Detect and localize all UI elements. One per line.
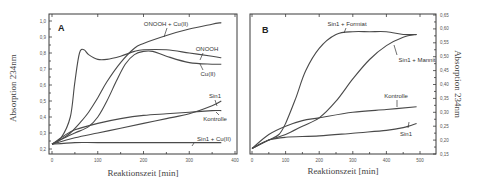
- series-curve: [252, 31, 417, 148]
- panel-b-label: B: [262, 25, 269, 35]
- x-tick-label: 100: [282, 158, 290, 163]
- y-tick-label: 0,3: [40, 131, 47, 136]
- panel-a-x-axis-title: Reaktionszeit [min]: [107, 168, 178, 178]
- panel-a: 1,00,90,80,70,60,50,40,30,20100200300400…: [8, 14, 239, 178]
- y-tick-label: 0,6: [40, 83, 47, 88]
- x-tick-label: 400: [231, 158, 239, 163]
- series-label-onooh: ONOOH: [196, 46, 219, 52]
- series-label-sin1-b: Sin1: [400, 131, 413, 137]
- y-tick-label: 0,50: [440, 54, 449, 59]
- series-curve: [52, 23, 221, 145]
- panel-b-x-axis-title: Reaktionszeit [min]: [307, 166, 378, 176]
- y-tick-label: 0,2: [40, 147, 47, 152]
- y-tick-label: 0,60: [440, 26, 449, 31]
- panel-b-y-axis-title: Absorption 234nm: [453, 50, 463, 118]
- figure: 1,00,90,80,70,60,50,40,30,20100200300400…: [0, 0, 486, 187]
- y-tick-label: 0,15: [440, 152, 449, 157]
- panel-a-frame: [49, 14, 237, 154]
- x-tick-label: 0: [51, 158, 54, 163]
- series-curve: [52, 101, 221, 144]
- y-tick-label: 0,20: [440, 138, 449, 143]
- panel-a-label: A: [58, 23, 65, 33]
- x-tick-label: 300: [349, 158, 357, 163]
- y-tick-label: 0,7: [40, 67, 47, 72]
- series-label-cu: Cu(II): [201, 71, 216, 77]
- y-tick-label: 1,0: [40, 19, 47, 24]
- leader-line: [394, 45, 397, 55]
- y-tick-label: 0,65: [440, 13, 449, 18]
- leader-line: [216, 112, 219, 115]
- y-tick-label: 0,40: [440, 82, 449, 87]
- x-tick-label: 500: [416, 158, 424, 163]
- series-label-kontrolle-b: Kontrolle: [384, 93, 408, 99]
- series-label-sin1: Sin1: [209, 93, 222, 99]
- panel-a-y-axis-title: Absorption 234nm: [8, 54, 18, 122]
- leader-line: [215, 100, 217, 106]
- leader-line: [192, 143, 194, 146]
- series-label-sin1-formiat: Sin1 + Formiat: [327, 21, 367, 27]
- x-tick-label: 400: [383, 158, 391, 163]
- y-tick-label: 0,9: [40, 35, 47, 40]
- series-curve: [252, 107, 417, 149]
- leader-line: [408, 122, 409, 128]
- y-tick-label: 0,5: [40, 99, 47, 104]
- series-label-sin1-cu: Sin1 + Cu(II): [197, 136, 231, 142]
- series-curve: [52, 142, 221, 144]
- series-label-sin1-mannit: Sin1 + Mannit: [399, 57, 436, 63]
- y-tick-label: 0,30: [440, 110, 449, 115]
- x-tick-label: 300: [185, 158, 193, 163]
- panel-b: 0,650,600,550,500,450,400,350,300,250,20…: [250, 13, 463, 177]
- series-label-onooh-cu: ONOOH + Cu(II): [144, 21, 189, 27]
- panel-b-curves: [252, 31, 417, 148]
- y-tick-label: 0,35: [440, 96, 449, 101]
- x-tick-label: 200: [140, 158, 148, 163]
- x-tick-label: 200: [315, 158, 323, 163]
- y-tick-label: 0,8: [40, 51, 47, 56]
- y-tick-label: 0,4: [40, 115, 47, 120]
- x-tick-label: 0: [251, 158, 254, 163]
- panel-a-curves: [52, 23, 221, 145]
- y-tick-label: 0,55: [440, 40, 449, 45]
- series-curve: [252, 35, 417, 149]
- series-label-kontrolle: Kontrolle: [203, 116, 227, 122]
- leader-line: [200, 64, 203, 70]
- panel-b-ticks: 0,650,600,550,500,450,400,350,300,250,20…: [251, 13, 450, 164]
- x-tick-label: 100: [94, 158, 102, 163]
- y-tick-label: 0,45: [440, 68, 449, 73]
- series-curve: [52, 110, 221, 144]
- y-tick-label: 0,25: [440, 124, 449, 129]
